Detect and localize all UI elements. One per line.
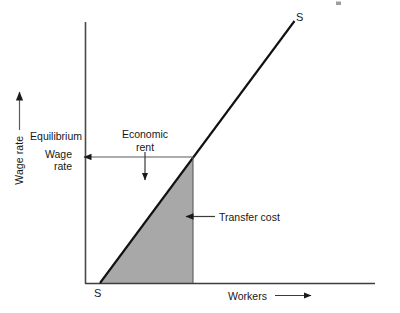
economic-rent-label: Economic rent (108, 128, 182, 153)
equilibrium-wage-rate-label-line2: rate (28, 160, 72, 172)
economic-rent-label-line2: rent (108, 141, 182, 154)
equilibrium-wage-rate-label: Wage rate (28, 148, 72, 172)
equilibrium-wage-rate-label-line1: Wage (28, 148, 72, 160)
economic-rent-label-line1: Economic (108, 128, 182, 141)
supply-curve-label-bottom: S (94, 287, 101, 300)
supply-curve-label-top: S (296, 11, 303, 24)
equilibrium-label: Equilibrium (30, 130, 82, 143)
transfer-cost-label: Transfer cost (219, 211, 280, 224)
scan-artifact (336, 2, 341, 6)
x-axis-title: Workers (228, 290, 267, 303)
y-axis-title: Wage rate (13, 130, 26, 190)
economics-supply-diagram: Wage rate Workers S S Equilibrium Wage r… (0, 0, 400, 313)
